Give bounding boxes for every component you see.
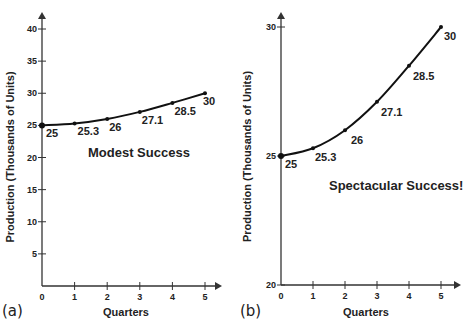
data-label: 25.3 [315, 151, 336, 163]
data-label: 27.1 [142, 114, 163, 126]
chart-annotation: Modest Success [88, 145, 190, 160]
x-tick-label: 5 [438, 291, 443, 301]
y-tick-label: 15 [27, 185, 37, 195]
y-tick-label: 30 [266, 22, 276, 32]
y-tick-label: 35 [27, 56, 37, 66]
data-label: 26 [351, 134, 363, 146]
x-axis-title: Quarters [103, 306, 149, 318]
charts-figure: 0123455101520253035402525.32627.128.530M… [0, 0, 464, 323]
y-tick-label: 20 [27, 153, 37, 163]
y-tick-label: 25 [27, 120, 37, 130]
x-tick-label: 4 [170, 292, 175, 302]
y-axis-arrow-icon [38, 12, 46, 19]
data-point [73, 121, 77, 125]
chart-annotation: Spectacular Success! [329, 178, 463, 193]
y-tick-label: 40 [27, 24, 37, 34]
y-tick-label: 10 [27, 217, 37, 227]
x-axis-title: Quarters [343, 306, 389, 318]
x-tick-label: 4 [406, 291, 411, 301]
data-label: 26 [109, 121, 121, 133]
data-label: 25 [46, 127, 58, 139]
y-tick-label: 30 [27, 88, 37, 98]
data-point [375, 100, 379, 104]
x-tick-label: 2 [105, 292, 110, 302]
x-tick-label: 5 [202, 292, 207, 302]
data-label: 30 [444, 30, 456, 42]
data-label: 25 [285, 158, 297, 170]
panel-label: (b) [240, 302, 261, 320]
panel-label: (a) [2, 302, 23, 320]
x-axis-arrow-icon [454, 281, 461, 289]
y-tick-label: 25 [266, 151, 276, 161]
x-tick-label: 1 [72, 292, 77, 302]
data-label: 25.3 [78, 125, 99, 137]
data-label: 27.1 [381, 106, 402, 118]
y-tick-label: 20 [266, 280, 276, 290]
y-axis-title: Production (Thousands of Units) [4, 71, 16, 242]
y-tick-label: 5 [32, 249, 37, 259]
x-axis-arrow-icon [215, 282, 222, 290]
x-tick-label: 1 [310, 291, 315, 301]
y-axis-title: Production (Thousands of Units) [241, 71, 253, 242]
x-tick-label: 3 [137, 292, 142, 302]
x-tick-label: 3 [374, 291, 379, 301]
data-point [407, 64, 411, 68]
data-label: 28.5 [413, 70, 434, 82]
data-point [343, 128, 347, 132]
data-point [39, 122, 45, 128]
y-axis-arrow-icon [277, 12, 285, 19]
data-point [278, 153, 284, 159]
data-label: 28.5 [174, 105, 195, 117]
data-label: 30 [203, 95, 215, 107]
data-point [311, 146, 315, 150]
x-tick-label: 0 [39, 292, 44, 302]
x-tick-label: 0 [278, 291, 283, 301]
data-point [439, 25, 443, 29]
x-tick-label: 2 [342, 291, 347, 301]
